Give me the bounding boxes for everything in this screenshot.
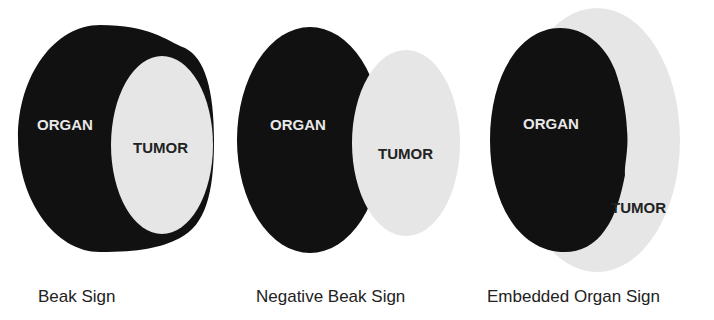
organ-label: ORGAN: [270, 116, 326, 133]
caption-embedded-organ-sign: Embedded Organ Sign: [487, 287, 660, 307]
organ-shape: [490, 28, 627, 252]
tumor-shape: [352, 50, 460, 236]
organ-label: ORGAN: [37, 116, 93, 133]
caption-beak-sign: Beak Sign: [38, 287, 116, 307]
caption-negative-beak-sign: Negative Beak Sign: [256, 287, 405, 307]
panel-beak-sign: ORGAN TUMOR: [18, 25, 214, 252]
diagram-canvas: ORGAN TUMOR ORGAN TUMOR ORGAN TUMOR: [0, 0, 714, 320]
tumor-label: TUMOR: [611, 199, 666, 216]
panel-embedded-organ-sign: ORGAN TUMOR: [490, 8, 680, 272]
tumor-label: TUMOR: [133, 139, 188, 156]
tumor-label: TUMOR: [378, 145, 433, 162]
panel-negative-beak-sign: ORGAN TUMOR: [237, 27, 460, 253]
organ-label: ORGAN: [523, 115, 579, 132]
